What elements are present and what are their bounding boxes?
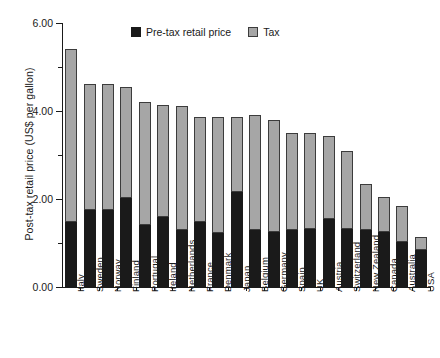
bar-segment-tax	[378, 197, 390, 232]
bar-segment-tax	[396, 206, 408, 243]
y-axis-tick-label: 2.00	[33, 193, 53, 205]
stacked-bar-chart: Post-tax retail price (US$ per gallon) 0…	[0, 0, 440, 358]
bar-segment-tax	[139, 102, 151, 224]
y-axis-tick-label: 0.00	[33, 281, 53, 293]
y-axis-tick-minor	[58, 243, 62, 244]
y-axis-tick-label: 4.00	[33, 105, 53, 117]
y-axis-title: Post-tax retail price (US$ per gallon)	[23, 29, 35, 279]
x-axis-label: Austria	[333, 262, 344, 292]
x-axis-label: Spain	[296, 267, 307, 292]
legend-item-pretax: Pre-tax retail price	[131, 26, 231, 38]
x-axis-label: Finland	[130, 260, 141, 292]
x-axis-label: France	[204, 262, 215, 292]
bar-segment-tax	[323, 136, 335, 219]
x-axis-label: Belgium	[259, 257, 270, 292]
bar-group	[120, 87, 132, 287]
y-axis-tick-minor	[58, 155, 62, 156]
x-axis-label: Ireland	[167, 262, 178, 292]
legend-item-tax: Tax	[248, 26, 279, 38]
y-axis-tick-major	[56, 199, 62, 200]
x-axis-label: Sweden	[94, 257, 105, 292]
x-axis-label: Germany	[278, 252, 289, 292]
x-axis-label: Australia	[406, 254, 417, 292]
x-axis-label: Italy	[75, 274, 86, 292]
bar-segment-tax	[65, 49, 77, 222]
x-axis-label: USA	[425, 272, 436, 292]
bar-segment-tax	[120, 87, 132, 198]
y-axis-tick-major	[56, 23, 62, 24]
bar-segment-tax	[231, 117, 243, 192]
y-axis-tick-major	[56, 111, 62, 112]
black-square-swatch-icon	[131, 27, 141, 37]
y-axis-tick-minor	[58, 67, 62, 68]
y-axis-tick-label: 6.00	[33, 17, 53, 29]
bar-segment-tax	[415, 237, 427, 250]
bar-segment-tax	[286, 133, 298, 230]
chart-legend: Pre-tax retail price Tax	[131, 26, 280, 38]
x-axis-label: Norway	[112, 259, 123, 292]
y-axis-tick-major	[56, 287, 62, 288]
bar-segment-tax	[102, 84, 114, 210]
bar-segment-tax	[84, 84, 96, 210]
bar-segment-tax	[304, 133, 316, 228]
bar-segment-tax	[360, 184, 372, 230]
x-axis-label: New Zealand	[370, 235, 381, 292]
bar-group	[65, 49, 77, 287]
x-axis-label: Japan	[241, 266, 252, 292]
x-axis-label: Canada	[388, 258, 399, 292]
gray-square-swatch-icon	[248, 27, 258, 37]
bar-segment-tax	[212, 117, 224, 233]
bar-segment-tax	[194, 117, 206, 222]
bar-segment-tax	[268, 120, 280, 232]
x-axis-label: Switzerland	[351, 242, 362, 292]
bar-segment-tax	[249, 115, 261, 230]
legend-label-tax: Tax	[263, 26, 279, 38]
x-axis-label: Denmark	[222, 253, 233, 292]
bar-segment-tax	[176, 106, 188, 230]
x-axis-labels: ItalySwedenNorwayFinlandPortugalIrelandN…	[62, 290, 430, 358]
x-axis-label: Netherlands	[186, 240, 197, 292]
bar-group	[304, 133, 316, 287]
bar-segment-tax	[341, 151, 353, 229]
x-axis-label: UK	[314, 279, 325, 292]
bar-segment-tax	[157, 105, 169, 216]
x-axis-label: Portugal	[149, 256, 160, 292]
legend-label-pretax: Pre-tax retail price	[146, 26, 231, 38]
